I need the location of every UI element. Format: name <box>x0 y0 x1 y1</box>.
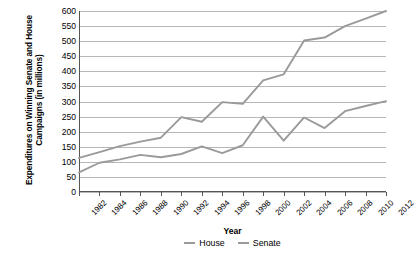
chart-legend: HouseSenate <box>79 238 386 248</box>
legend-label: Senate <box>253 238 281 248</box>
x-axis-tick <box>181 192 182 196</box>
y-axis-tick-label: 0 <box>48 188 76 197</box>
y-axis-tick-label: 250 <box>48 112 76 121</box>
x-axis-tick <box>366 192 367 196</box>
y-axis-tick-label: 550 <box>48 22 76 31</box>
x-axis-tick <box>284 192 285 196</box>
legend-item-house[interactable]: House <box>184 238 224 248</box>
x-axis-tick <box>325 192 326 196</box>
x-axis-tick-label: 2006 <box>336 199 354 217</box>
legend-line-icon <box>184 242 195 244</box>
y-axis-tick-label: 200 <box>48 127 76 136</box>
y-axis-tick-label: 300 <box>48 97 76 106</box>
x-axis-tick-label: 1994 <box>213 199 231 217</box>
x-axis-tick-label: 2008 <box>356 199 374 217</box>
y-axis-tick-label: 100 <box>48 158 76 167</box>
legend-item-senate[interactable]: Senate <box>238 238 281 248</box>
series-layer <box>79 11 386 192</box>
x-axis-tick-label: 2002 <box>295 199 313 217</box>
series-line-house <box>79 11 386 158</box>
x-axis-tick-label: 1996 <box>233 199 251 217</box>
x-axis-tick-label: 2004 <box>315 199 333 217</box>
x-axis-tick-label: 2010 <box>377 199 395 217</box>
x-axis-tick <box>99 192 100 196</box>
x-axis-tick <box>386 192 387 196</box>
x-axis-title: Year <box>79 226 386 236</box>
y-axis-tick-label: 350 <box>48 82 76 91</box>
x-axis-tick-label: 1988 <box>152 199 170 217</box>
x-axis-tick <box>263 192 264 196</box>
x-axis-tick <box>161 192 162 196</box>
x-axis-tick <box>79 192 80 196</box>
y-axis-tick-label: 400 <box>48 67 76 76</box>
x-axis-tick <box>243 192 244 196</box>
y-axis-tick-label: 600 <box>48 7 76 16</box>
y-axis-tick-labels: 600550500450400350300250200150100500 <box>46 11 76 192</box>
y-axis-tick-label: 150 <box>48 142 76 151</box>
x-axis-ticks <box>79 192 386 197</box>
x-axis-tick-labels: 1982198419861988199019921994199619982000… <box>79 199 386 229</box>
x-axis-tick <box>345 192 346 196</box>
y-axis-tick-label: 500 <box>48 37 76 46</box>
x-axis-tick-label: 1986 <box>131 199 149 217</box>
x-axis-tick-label: 1982 <box>90 199 108 217</box>
series-line-senate <box>79 101 386 172</box>
legend-label: House <box>199 238 224 248</box>
x-axis-tick-label: 1984 <box>111 199 129 217</box>
x-axis-tick-label: 2000 <box>274 199 292 217</box>
x-axis-tick-label: 1992 <box>193 199 211 217</box>
legend-line-icon <box>238 242 249 244</box>
x-axis-tick-label: 1998 <box>254 199 272 217</box>
x-axis-tick <box>120 192 121 196</box>
x-axis-tick-label: 2012 <box>397 199 415 217</box>
x-axis-tick <box>140 192 141 196</box>
y-axis-tick-label: 450 <box>48 52 76 61</box>
x-axis-tick <box>304 192 305 196</box>
x-axis-tick <box>222 192 223 196</box>
x-axis-tick-label: 1990 <box>172 199 190 217</box>
x-axis-tick <box>202 192 203 196</box>
y-axis-tick-label: 50 <box>48 173 76 182</box>
